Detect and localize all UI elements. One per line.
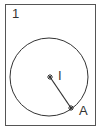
point-label-A: A xyxy=(79,103,88,118)
point-label-I: I xyxy=(58,68,62,83)
